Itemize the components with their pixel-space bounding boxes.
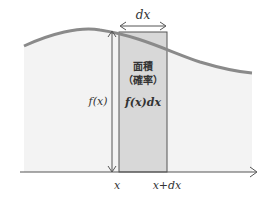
probability-density-diagram: dx f(x) 面積 （確率） f(x)dx x x+dx <box>0 0 272 202</box>
height-label: f(x) <box>88 95 108 108</box>
x-plus-dx-label: x+dx <box>153 179 182 192</box>
area-title-line1: 面積 <box>133 60 154 72</box>
area-formula: f(x)dx <box>124 96 161 109</box>
width-label: dx <box>136 8 151 22</box>
x-label: x <box>114 179 121 192</box>
area-title-line2: （確率） <box>123 74 163 86</box>
